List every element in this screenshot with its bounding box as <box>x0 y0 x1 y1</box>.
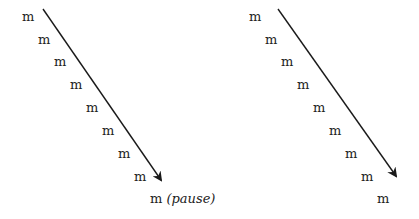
syllable-m: m <box>54 55 66 68</box>
syllable-m: m <box>38 33 50 46</box>
arrows-layer <box>0 0 419 219</box>
syllable-m: m <box>150 191 162 206</box>
syllable-m: m <box>249 10 261 23</box>
syllable-m: m <box>86 101 98 114</box>
final-syllable: m (pause) <box>150 192 215 205</box>
syllable-m: m <box>102 124 114 137</box>
syllable-m: m <box>313 101 325 114</box>
left-descending-arrow <box>43 9 161 180</box>
syllable-m: m <box>377 192 389 205</box>
syllable-m: m <box>134 170 146 183</box>
syllable-m: m <box>345 147 357 160</box>
syllable-m: m <box>281 55 293 68</box>
syllable-m: m <box>70 78 82 91</box>
syllable-m: m <box>265 33 277 46</box>
syllable-m: m <box>22 10 34 23</box>
syllable-m: m <box>297 78 309 91</box>
syllable-m: m <box>329 124 341 137</box>
right-descending-arrow <box>278 9 396 176</box>
pause-annotation: (pause) <box>166 191 215 206</box>
syllable-m: m <box>361 170 373 183</box>
syllable-m: m <box>118 147 130 160</box>
